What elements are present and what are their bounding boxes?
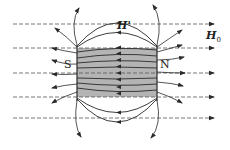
north-pole-label: N xyxy=(160,59,170,70)
south-pole-label: S xyxy=(64,59,72,70)
magnet-field-diagram xyxy=(0,0,230,150)
h0-subscript: 0 xyxy=(216,36,220,44)
h0-label: H0 xyxy=(206,30,221,44)
h-prime-label: H' xyxy=(117,20,131,31)
h0-main: H xyxy=(206,29,216,42)
